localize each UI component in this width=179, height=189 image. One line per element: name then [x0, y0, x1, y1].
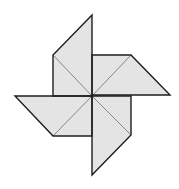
- pinwheel-outlines: [15, 15, 170, 175]
- blade-bottom: [92, 96, 131, 175]
- pinwheel-diagram: [0, 0, 179, 189]
- blade-left: [15, 96, 92, 136]
- pinwheel-figure: [0, 0, 179, 189]
- blade-top: [53, 15, 92, 96]
- blade-right: [92, 55, 170, 95]
